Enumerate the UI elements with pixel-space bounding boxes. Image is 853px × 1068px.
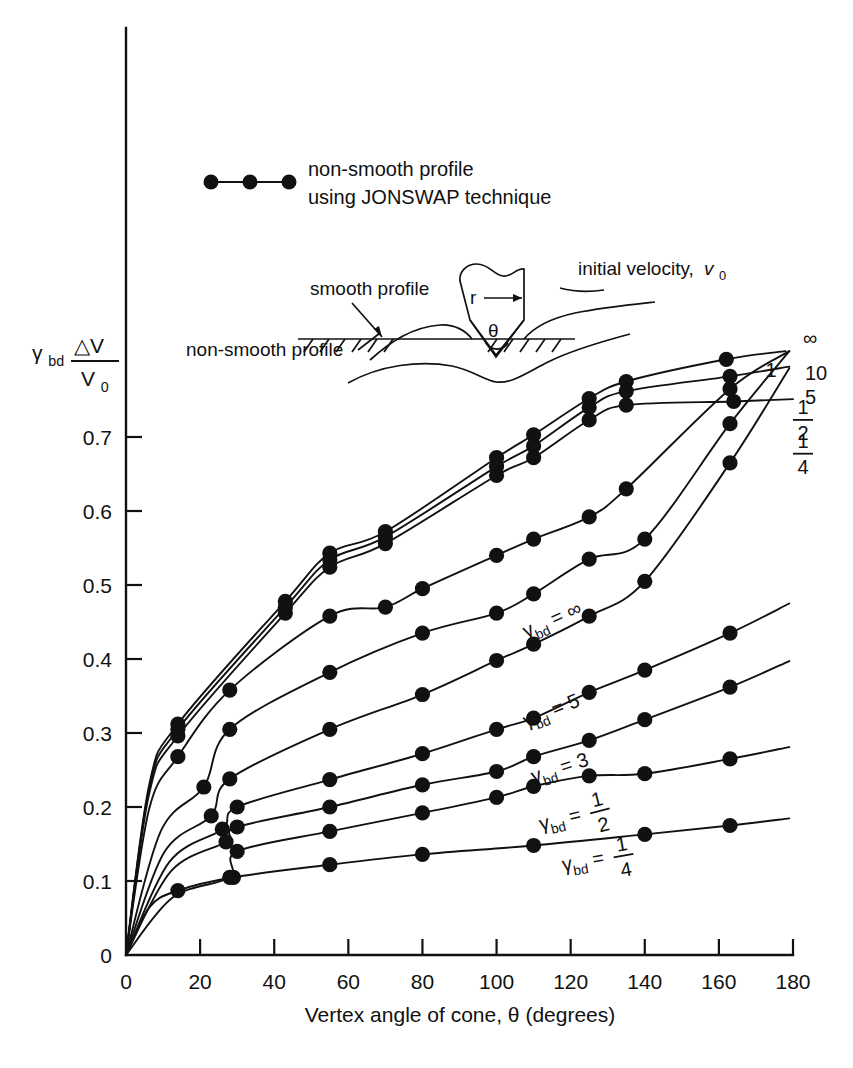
data-point-8-8 [722,751,737,766]
x-tick-label-100: 100 [479,970,514,993]
data-point-6-8 [722,626,737,641]
end-label-one-quarter-denominator: 4 [797,456,808,478]
data-point-2-3 [378,536,393,551]
x-tick-label-20: 20 [188,970,211,993]
inset-non-smooth-leader [358,333,380,350]
data-point-8-2 [322,824,337,839]
x-tick-label-80: 80 [411,970,434,993]
inset-non-smooth-profile-label: non-smooth profile [186,339,343,360]
end-label-10: 10 [805,362,827,384]
curve-end-labels: ∞10511214 [765,327,827,477]
legend-line-2: using JONSWAP technique [308,186,551,208]
data-point-3-9 [722,381,737,396]
x-axis-ticks [200,939,793,955]
curve-label-gamma-5: γbd = 5 [519,689,584,736]
data-point-7-3 [415,777,430,792]
inset-radius-label: r [470,287,477,308]
curve-label-gamma-infinity: γbd = ∞ [519,597,587,647]
y-axis-title: γ bd △V V 0 [32,334,119,395]
legend-line-1: non-smooth profile [308,158,474,180]
y-axis-denominator-symbol: V [81,367,95,390]
chart-canvas: non-smooth profile using JONSWAP techniq… [0,0,853,1068]
data-point-4-7 [637,532,652,547]
data-point-8-1 [230,844,245,859]
data-point-4-6 [582,552,597,567]
data-point-3-6 [526,532,541,547]
x-axis-tick-labels: 020406080100120140160180 [120,970,810,993]
legend-marker-right [282,175,297,190]
x-tick-label-40: 40 [263,970,286,993]
y-axis-tick-labels: 00.10.20.30.40.50.60.7 [83,426,113,967]
end-label-1: 1 [765,359,776,381]
end-label-one-half-numerator: 1 [797,396,808,418]
inset-initial-velocity-text: initial velocity, [578,258,694,279]
data-point-3-7 [582,509,597,524]
inset-velocity-subscript: 0 [719,268,726,283]
inset-velocity-leader [560,288,604,291]
data-point-8-7 [637,766,652,781]
inset-smooth-profile-curve-right [524,302,655,339]
y-tick-label-0.4: 0.4 [83,648,113,671]
x-tick-label-60: 60 [337,970,360,993]
data-point-2-7 [619,398,634,413]
y-tick-label-0.1: 0.1 [83,870,112,893]
inset-theta-label: θ [488,320,499,341]
curve-label-gamma-one-half-text: γbd = [537,803,585,839]
x-tick-label-120: 120 [553,970,588,993]
data-point-3-4 [415,581,430,596]
curve-1 [126,367,789,955]
data-point-7-7 [637,712,652,727]
y-tick-label-0.7: 0.7 [83,426,112,449]
data-point-5-0 [204,808,219,823]
curve-label-gamma-one-half-numerator: 1 [589,787,605,811]
curve-label-gamma-one-quarter-denominator: 4 [619,858,634,882]
inset-velocity-symbol: v [704,258,715,279]
markers-layer [170,352,741,899]
x-tick-label-160: 160 [701,970,736,993]
curve-label-gamma-one-quarter: γbd = 14 [558,831,637,891]
data-point-0-8 [719,352,734,367]
x-tick-label-180: 180 [775,970,810,993]
curve-label-gamma-one-quarter-eq: = [585,846,606,871]
curve-label-gamma-one-half: γbd = 12 [534,786,615,850]
y-axis-ticks [126,437,142,881]
y-tick-label-0.6: 0.6 [83,500,112,523]
data-point-6-1 [230,799,245,814]
data-point-9-4 [526,838,541,853]
data-point-3-5 [489,548,504,563]
data-point-5-4 [489,653,504,668]
curve-label-gamma-5-text: γbd = 5 [519,689,584,736]
legend: non-smooth profile using JONSWAP techniq… [204,158,552,208]
data-point-9-2 [322,857,337,872]
data-point-9-3 [415,847,430,862]
curve-3 [126,351,789,955]
data-point-5-2 [322,722,337,737]
end-label-one-quarter-numerator: 1 [797,430,808,452]
data-point-6-2 [322,772,337,787]
curve-label-gamma-one-half-denominator: 2 [595,812,611,836]
data-point-2-5 [526,450,541,465]
curve-4 [126,351,789,955]
inset-initial-velocity-label: initial velocity, v 0 [578,258,726,283]
curve-label-gamma-one-quarter-text: γbd = [560,846,606,880]
data-point-1-7 [619,384,634,399]
end-label-infinity: ∞ [803,327,817,349]
data-point-3-2 [322,608,337,623]
data-point-4-3 [415,626,430,641]
inset-non-smooth-profile-curve [348,334,630,383]
legend-marker-mid [243,175,258,190]
x-axis-title: Vertex angle of cone, θ (degrees) [305,1003,616,1026]
data-point-7-4 [489,764,504,779]
data-point-9-5 [637,827,652,842]
data-point-9-1 [226,870,241,885]
y-axis-gamma-subscript: bd [48,353,64,369]
data-point-7-5 [526,749,541,764]
data-point-3-8 [619,481,634,496]
data-point-4-5 [526,586,541,601]
inset-indenter-body [460,264,524,355]
data-point-7-8 [722,680,737,695]
data-point-7-2 [322,799,337,814]
data-point-6-4 [489,722,504,737]
data-point-4-8 [722,416,737,431]
data-point-4-1 [222,722,237,737]
